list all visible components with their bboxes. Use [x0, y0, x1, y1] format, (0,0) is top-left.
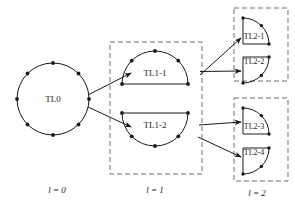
node-tl2-4[interactable]: TL2-4 [241, 146, 270, 175]
tl2-1-boundary-vertices [241, 16, 270, 45]
tl2-3-boundary-vertices [241, 106, 270, 135]
group-box-level-1 [110, 42, 202, 174]
level-label-2: l = 2 [248, 188, 266, 198]
edge-tl1-2-to-tl2-3 [199, 122, 241, 125]
level-label-1: l = 1 [146, 185, 164, 195]
edge-tl1-2-to-tl2-4 [198, 137, 241, 157]
tl0-label: TL0 [45, 94, 61, 104]
node-tl1-1[interactable]: TL1-1 [120, 49, 190, 86]
edge-tl1-1-to-tl2-2 [200, 71, 241, 72]
node-tl1-2[interactable]: TL1-2 [120, 111, 190, 148]
tl2-4-label: TL2-4 [244, 148, 264, 157]
node-tl2-2[interactable]: TL2-2 [241, 55, 270, 84]
tl2-3-label: TL2-3 [244, 122, 264, 131]
tl1-2-label: TL1-2 [144, 120, 167, 130]
node-tl0[interactable]: TL0 [15, 61, 91, 137]
tl1-1-label: TL1-1 [144, 68, 167, 78]
level-label-0: l = 0 [48, 185, 66, 195]
edge-tl1-1-to-tl2-1 [200, 38, 241, 75]
group-box-level-2-bottom [234, 98, 288, 181]
node-tl2-3[interactable]: TL2-3 [241, 106, 270, 135]
diagram-canvas: TL0 TL1-1 TL1-2 [0, 0, 295, 209]
node-tl2-1[interactable]: TL2-1 [241, 16, 270, 45]
tl2-1-label: TL2-1 [244, 32, 264, 41]
tl2-2-label: TL2-2 [244, 57, 264, 66]
decomposition-tree-diagram: TL0 TL1-1 TL1-2 [0, 0, 295, 209]
